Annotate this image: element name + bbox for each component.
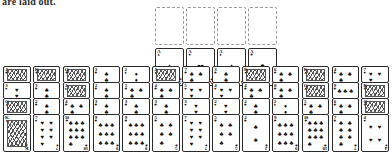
tableau-column-11-card-4[interactable]: 10♣10♣♣♣♣♣♣♣♣♣♣♣ [302,114,330,152]
card-index-bottom-right: 7♥ [205,143,207,151]
pip-club: ♣ [319,127,323,133]
pip-club: ♣ [139,87,143,93]
tableau-column-10-card-2[interactable]: 8♣♣♣♣ [272,82,300,99]
tableau-column-8-card-2[interactable]: 4♥♥♥♥ [212,82,240,99]
tableau-column-13-card-3[interactable]: Q♣ [361,98,389,115]
pip-club: ♣ [289,131,293,137]
court-card-art [67,69,87,81]
card-index-bottom-right: 5♣ [175,143,178,151]
tableau-column-11-card-1[interactable]: K♠ [302,66,330,83]
tableau-column-3-card-4[interactable]: 10♣10♣♣♣♣♣♣♣♣♣♣♣ [63,114,91,152]
tableau-column-7-card-3[interactable]: 3♥♥♥♥ [182,98,210,115]
pip-club: ♣ [104,122,108,128]
tableau-column-11-card-2[interactable]: Q♠ [302,82,330,99]
tableau-column-6-card-2[interactable]: 4♣♣♣♣ [152,82,180,99]
tableau-column-13-card-1[interactable]: 7♥♥♥♥ [361,66,389,83]
free-cell-1[interactable] [155,7,184,45]
tableau-column-3-card-1[interactable]: Q♣ [63,66,91,83]
pip-club: ♣ [160,122,164,128]
tableau-column-6-card-4[interactable]: 5♣5♣♣♣♣♣♣ [152,114,180,152]
pip-club: ♣ [319,120,323,126]
tableau-column-10-card-3[interactable]: 2♦♦♦ [272,98,300,115]
card-index-bottom-right: 7♥ [56,143,58,151]
pip-club: ♣ [228,131,232,137]
pip-club: ♣ [348,103,352,109]
pip-heart: ♥ [190,134,194,140]
pip-heart: ♥ [199,127,203,133]
pip-club: ♣ [220,140,224,146]
pip-club: ♣ [128,122,132,128]
card-index-bottom-right: 9♣ [295,143,298,151]
tableau-column-9-card-1[interactable]: K♥ [242,66,270,83]
tableau-column-12-card-1[interactable]: 4♣♣♣♣ [332,66,360,83]
tableau-column-1-card-3[interactable]: Q♠ [3,98,31,115]
tableau-column-5-card-1[interactable]: 2♦♦♦ [122,66,150,83]
tableau-column-1-card-1[interactable]: J♣ [3,66,31,83]
tableau-column-2-card-2[interactable]: 3♣♣♣♣ [33,82,61,99]
tableau-column-13-card-4[interactable]: 4♥4♥♥♥♥♥ [361,114,389,152]
tableau-column-13-card-2[interactable]: K♣ [361,82,389,99]
pip-club: ♣ [128,131,132,137]
tableau-column-12-card-3[interactable]: 6♣♣♣♣ [332,98,360,115]
pip-club: ♣ [220,131,224,137]
tableau-column-3-card-3[interactable]: 4♣♣♣♣ [63,98,91,115]
tableau-column-8-card-1[interactable]: 3♣♣♣♣ [212,66,240,83]
pip-club: ♣ [79,103,83,109]
tableau-column-4-card-3[interactable]: 3♣♣♣♣ [93,98,121,115]
tableau-column-1-card-2[interactable]: 3♥♥♥♥ [3,82,31,99]
pip-heart: ♥ [378,124,382,130]
pip-club: ♣ [284,131,288,137]
tableau-column-1-card-4[interactable]: K♠K♠ [3,114,31,152]
tableau-column-3-card-2[interactable]: J♠ [63,82,91,99]
tableau-column-9-card-4[interactable]: 2♣2♣♣♣ [242,114,270,152]
pip-club: ♣ [343,88,347,94]
tableau-column-4-card-2[interactable]: 2♣♣♣ [93,82,121,99]
card-index-bottom-right: 9♣ [116,143,119,151]
tableau-column-11-card-3[interactable]: 5♣♣♣♣ [302,98,330,115]
pip-club: ♣ [69,141,73,147]
pip-club: ♣ [198,71,202,77]
solitaire-board: are laid out. A♠A♠♠A♥A♥♥A♦A♦♦A♣A♣♣J♣3♥♥♥… [0,0,392,166]
tableau-column-6-card-3[interactable]: 3♣♣♣♣ [152,98,180,115]
tableau-column-8-card-3[interactable]: 2♥♥♥ [212,98,240,115]
tableau-column-7-card-2[interactable]: 5♥♥♥♥ [182,82,210,99]
court-card-art [306,69,326,81]
tableau-column-7-card-1[interactable]: 7♣♣♣♣ [182,66,210,83]
tableau-column-2-card-1[interactable]: K♣ [33,66,61,83]
pip-heart: ♥ [378,137,382,143]
tableau-column-9-card-3[interactable]: 2♣♣♣ [242,98,270,115]
pip-club: ♣ [308,127,312,133]
free-cell-2[interactable] [186,7,215,45]
free-cell-3[interactable] [217,7,246,45]
tableau-column-4-card-1[interactable]: 3♣♣♣♣ [93,66,121,83]
card-pips: ♣♣♣ [277,87,295,95]
tableau-column-2-card-4[interactable]: 7♥7♥♥♥♥♥♥♥♥ [33,114,61,152]
pip-club: ♣ [348,127,352,133]
tableau-column-7-card-4[interactable]: 7♥7♥♥♥♥♥♥♥♥ [182,114,210,152]
pip-club: ♣ [289,140,293,146]
tableau-column-9-card-2[interactable]: 4♣♣♣♣ [242,82,270,99]
tableau-column-5-card-3[interactable]: 3♣♣♣♣ [122,98,150,115]
pip-club: ♣ [104,131,108,137]
court-card-art [7,69,27,81]
card-pips: ♣♣♣ [337,87,355,95]
tableau-column-4-card-4[interactable]: 9♣9♣♣♣♣♣♣♣♣♣♣ [93,114,121,152]
pip-club: ♣ [278,140,282,146]
tableau-column-12-card-4[interactable]: 7♣7♣♣♣♣♣♣♣♣ [332,114,360,152]
tableau-column-8-card-4[interactable]: 5♣5♣♣♣♣♣♣ [212,114,240,152]
pip-club: ♣ [69,120,73,126]
tableau-column-5-card-2[interactable]: 5♣♣♣♣ [122,82,150,99]
tableau-column-10-card-4[interactable]: 9♣9♣♣♣♣♣♣♣♣♣♣ [272,114,300,152]
card-pips: ♥♥♥ [8,87,26,95]
tableau-column-12-card-2[interactable]: 9♣♣♣♣ [332,82,360,99]
free-cell-4[interactable] [248,7,277,45]
court-card-art [246,69,266,81]
tableau-column-2-card-3[interactable]: 2♣♣♣ [33,98,61,115]
card-pips: ♣♣♣ [307,103,325,111]
card-pips: ♣♣♣ [127,87,145,95]
tableau-column-10-card-1[interactable]: 6♣♣♣♣ [272,66,300,83]
pip-club: ♣ [104,140,108,146]
tableau-column-5-card-4[interactable]: 9♣9♣♣♣♣♣♣♣♣♣♣ [122,114,150,152]
tableau-column-6-card-1[interactable]: J♦ [152,66,180,83]
court-card-art [7,101,27,113]
